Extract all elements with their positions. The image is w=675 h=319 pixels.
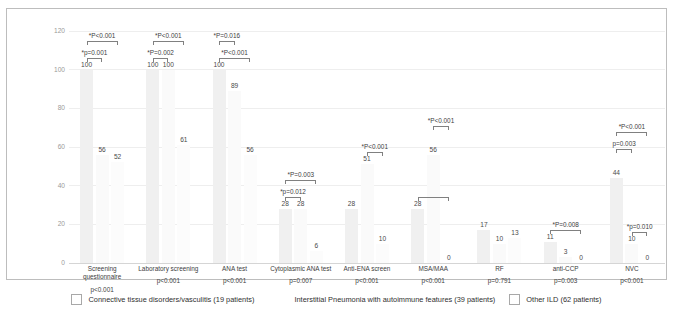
bar-value-label: 51 bbox=[353, 155, 381, 163]
bar-value-label: 28 bbox=[287, 200, 315, 208]
significance-bracket bbox=[153, 41, 184, 45]
significance-label: *p=0.010 bbox=[622, 223, 658, 230]
y-axis-tick-label: 60 bbox=[31, 143, 65, 151]
significance-label: *P=0.002 bbox=[143, 49, 179, 56]
y-axis: 020406080100120 bbox=[27, 31, 65, 263]
x-axis-category-label: Cytoplasmic ANA test bbox=[268, 265, 334, 273]
bar bbox=[294, 209, 307, 263]
x-axis-group-6: RFp=0.791 bbox=[466, 265, 532, 286]
significance-bracket bbox=[616, 132, 647, 136]
significance-bracket bbox=[219, 58, 250, 62]
significance-bracket bbox=[367, 152, 383, 156]
legend-swatch-icon bbox=[509, 294, 520, 305]
significance-label: *P<0.001 bbox=[84, 32, 120, 39]
bar-value-label: 56 bbox=[419, 146, 447, 154]
bar-value-label: 10 bbox=[369, 235, 397, 243]
bar-value-label: 100 bbox=[73, 61, 101, 69]
x-axis-group-1: Laboratory screeningp<0.001 bbox=[135, 265, 201, 286]
x-axis-group-7: anti-CCPp=0.003 bbox=[533, 265, 599, 286]
significance-bracket bbox=[285, 197, 301, 201]
bar bbox=[345, 209, 358, 263]
x-axis-group-3: Cytoplasmic ANA testp=0.007 bbox=[268, 265, 334, 286]
bar-value-label: 0 bbox=[633, 254, 661, 262]
bar bbox=[493, 244, 506, 263]
bar-value-label: 61 bbox=[170, 136, 198, 144]
x-axis-pvalue-label: p=0.003 bbox=[533, 277, 599, 285]
bar bbox=[376, 244, 389, 263]
y-axis-tick-label: 80 bbox=[31, 104, 65, 112]
significance-label: p=0.003 bbox=[606, 140, 642, 147]
legend-item-other-ild: Other ILD (62 patients) bbox=[509, 294, 601, 305]
bar bbox=[610, 178, 623, 263]
x-axis-group-8: NVCp<0.001 bbox=[599, 265, 665, 286]
bar bbox=[213, 70, 226, 263]
x-axis-group-5: MSA/MAAp<0.001 bbox=[400, 265, 466, 286]
bar-value-label: 89 bbox=[221, 82, 249, 90]
significance-bracket bbox=[87, 41, 118, 45]
bar bbox=[310, 251, 323, 263]
significance-bracket bbox=[219, 41, 235, 45]
bar bbox=[228, 91, 241, 263]
legend-label: Other ILD (62 patients) bbox=[526, 295, 601, 304]
x-axis-category-label: RF bbox=[466, 265, 532, 273]
significance-label: *P=0.016 bbox=[209, 32, 245, 39]
bar bbox=[508, 238, 521, 263]
x-axis-category-label: NVC bbox=[599, 265, 665, 273]
significance-bracket bbox=[87, 58, 103, 62]
x-axis-category-label: Anti-ENA screen bbox=[334, 265, 400, 273]
bar-value-label: 56 bbox=[236, 146, 264, 154]
x-axis-category-label: anti-CCP bbox=[533, 265, 599, 273]
bar-value-label: 6 bbox=[302, 242, 330, 250]
x-axis-category-label: ANA test bbox=[201, 265, 267, 273]
bar-value-label: 0 bbox=[435, 254, 463, 262]
significance-bracket bbox=[433, 126, 449, 130]
x-axis-category-label: Screening questionnaire bbox=[69, 265, 135, 282]
bar-value-label: 44 bbox=[602, 169, 630, 177]
x-axis-pvalue-label: p=0.791 bbox=[466, 277, 532, 285]
x-axis-category-label: Laboratory screening bbox=[135, 265, 201, 273]
x-axis-group-4: Anti-ENA screenp<0.001 bbox=[334, 265, 400, 286]
chart-legend: Connective tissue disorders/vasculitis (… bbox=[6, 286, 667, 313]
significance-label: *P=0.003 bbox=[283, 171, 319, 178]
significance-bracket bbox=[550, 230, 581, 234]
significance-bracket bbox=[632, 232, 648, 236]
significance-bracket bbox=[285, 180, 316, 184]
bar bbox=[427, 155, 440, 263]
bar-value-label: 17 bbox=[470, 221, 498, 229]
bar bbox=[361, 164, 374, 263]
x-axis-pvalue-label: p<0.001 bbox=[599, 277, 665, 285]
bar-value-label: 11 bbox=[536, 233, 564, 241]
bar bbox=[80, 70, 93, 263]
bar-value-label: 13 bbox=[501, 229, 529, 237]
figure-container: 020406080100120 100100100282828171144561… bbox=[0, 0, 675, 319]
significance-label: *p=0.012 bbox=[275, 188, 311, 195]
bar bbox=[162, 70, 175, 263]
legend-label: Interstitial Pneumonia with autoimmune f… bbox=[294, 295, 495, 304]
significance-label: *P<0.001 bbox=[217, 49, 253, 56]
significance-bracket bbox=[153, 58, 169, 62]
significance-label: *P=0.008 bbox=[548, 221, 584, 228]
significance-bracket bbox=[616, 149, 632, 153]
bar-value-label: 0 bbox=[567, 254, 595, 262]
x-axis-pvalue-label: p<0.001 bbox=[135, 277, 201, 285]
x-axis-pvalue-label: p<0.001 bbox=[400, 277, 466, 285]
significance-bracket bbox=[418, 197, 449, 201]
y-axis-tick-label: 20 bbox=[31, 220, 65, 228]
legend-swatch-icon bbox=[71, 294, 82, 305]
bar bbox=[177, 145, 190, 263]
legend-label: Connective tissue disorders/vasculitis (… bbox=[88, 295, 254, 304]
bar-value-label: 100 bbox=[154, 61, 182, 69]
bar bbox=[111, 162, 124, 263]
x-axis-pvalue-label: p<0.001 bbox=[334, 277, 400, 285]
x-axis-pvalue-label: p=0.007 bbox=[268, 277, 334, 285]
legend-item-ipaf: Interstitial Pneumonia with autoimmune f… bbox=[294, 295, 495, 304]
significance-label: *P<0.001 bbox=[423, 117, 459, 124]
chart-frame: 020406080100120 100100100282828171144561… bbox=[6, 8, 667, 280]
bar-value-label: 52 bbox=[104, 153, 132, 161]
bar bbox=[146, 70, 159, 263]
bar-value-label: 10 bbox=[618, 235, 646, 243]
x-axis-category-label: MSA/MAA bbox=[400, 265, 466, 273]
x-axis-pvalue-label: p<0.001 bbox=[201, 277, 267, 285]
y-axis-tick-label: 120 bbox=[31, 27, 65, 35]
x-axis-group-2: ANA testp<0.001 bbox=[201, 265, 267, 286]
